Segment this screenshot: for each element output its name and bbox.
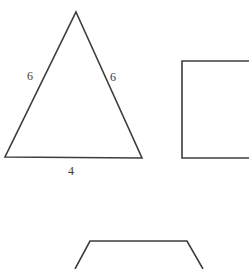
triangle-right-side-label: 6	[110, 71, 116, 83]
triangle-left-side-label: 6	[27, 70, 33, 82]
triangle-base-label: 4	[68, 165, 74, 177]
canvas-background	[0, 0, 249, 269]
geometry-figure-canvas	[0, 0, 249, 269]
